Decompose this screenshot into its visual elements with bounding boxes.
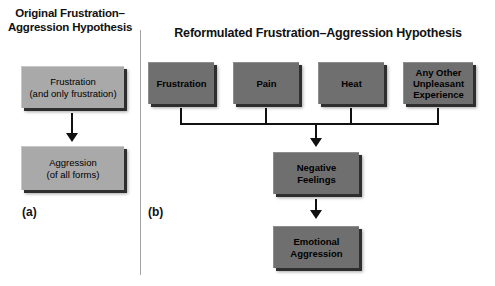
connector-pain-drop	[265, 108, 267, 124]
connector-frustration-to-aggression-stem	[71, 113, 73, 135]
connector-horizontal-bus	[180, 123, 439, 125]
node-any-other-unpleasant-experience-line-2: Unpleasant	[413, 78, 464, 89]
node-any-other-unpleasant-experience: Any Other Unpleasant Experience	[403, 62, 473, 104]
left-panel-title: Original Frustration– Aggression Hypothe…	[2, 6, 138, 35]
panel-divider	[140, 30, 141, 275]
node-pain-label: Pain	[253, 78, 279, 89]
node-frustration-and-only-frustration: Frustration (and only frustration)	[21, 66, 124, 108]
node-negative-feelings: Negative Feelings	[273, 152, 359, 194]
node-heat: Heat	[318, 62, 384, 104]
node-emotional-aggression-label: Emotional Aggression	[287, 236, 345, 258]
node-negative-feelings-line-2: Feelings	[297, 174, 337, 185]
connector-any-other-drop	[437, 108, 439, 124]
node-frustration-label: Frustration	[153, 78, 209, 89]
node-frustration: Frustration	[148, 62, 214, 104]
node-heat-label: Heat	[338, 78, 365, 89]
node-emotional-aggression-line-1: Emotional	[290, 236, 342, 247]
node-pain: Pain	[233, 62, 299, 104]
panel-letter-b: (b)	[148, 205, 163, 219]
left-panel-title-line-2: Aggression Hypothesis	[2, 20, 138, 34]
right-panel-title: Reformulated Frustration–Aggression Hypo…	[146, 26, 490, 42]
connector-frustration-to-aggression-arrowhead	[66, 133, 78, 142]
connector-frustration-drop	[180, 108, 182, 124]
node-negative-feelings-line-1: Negative	[297, 162, 337, 173]
node-aggression-of-all-forms: Aggression (of all forms)	[21, 146, 124, 190]
node-aggression-of-all-forms-line-2: (of all forms)	[47, 169, 100, 180]
node-any-other-unpleasant-experience-line-1: Any Other	[413, 67, 464, 78]
node-frustration-and-only-frustration-label: Frustration (and only frustration)	[26, 76, 119, 98]
node-pain-line-1: Pain	[256, 78, 276, 89]
panel-letter-a: (a)	[22, 205, 37, 219]
node-emotional-aggression: Emotional Aggression	[273, 226, 359, 268]
frustration-aggression-diagram: Original Frustration– Aggression Hypothe…	[0, 0, 495, 286]
node-aggression-of-all-forms-label: Aggression (of all forms)	[44, 157, 103, 179]
node-negative-feelings-label: Negative Feelings	[294, 162, 340, 184]
left-panel-title-line-1: Original Frustration–	[2, 6, 138, 20]
connector-negative-feelings-to-emotional-aggression-arrowhead	[310, 210, 322, 219]
connector-heat-drop	[350, 108, 352, 124]
node-emotional-aggression-line-2: Aggression	[290, 248, 342, 259]
node-any-other-unpleasant-experience-label: Any Other Unpleasant Experience	[410, 67, 467, 101]
node-frustration-and-only-frustration-line-1: Frustration	[29, 76, 116, 87]
node-frustration-line-1: Frustration	[156, 78, 206, 89]
node-heat-line-1: Heat	[341, 78, 362, 89]
connector-bus-to-negative-feelings-arrowhead	[310, 138, 322, 147]
node-any-other-unpleasant-experience-line-3: Experience	[413, 89, 464, 100]
node-aggression-of-all-forms-line-1: Aggression	[47, 157, 100, 168]
node-frustration-and-only-frustration-line-2: (and only frustration)	[29, 88, 116, 99]
